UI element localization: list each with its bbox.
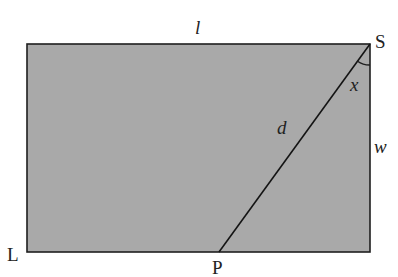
label-diagonal-d: d [277, 118, 287, 137]
label-point-p: P [212, 258, 223, 277]
label-width-w: w [374, 137, 387, 156]
diagram-canvas [0, 0, 398, 277]
label-point-l: L [7, 245, 19, 264]
rectangle [27, 44, 370, 252]
label-point-s: S [375, 32, 386, 51]
label-angle-x: x [350, 75, 358, 94]
label-length-l: l [195, 18, 200, 37]
